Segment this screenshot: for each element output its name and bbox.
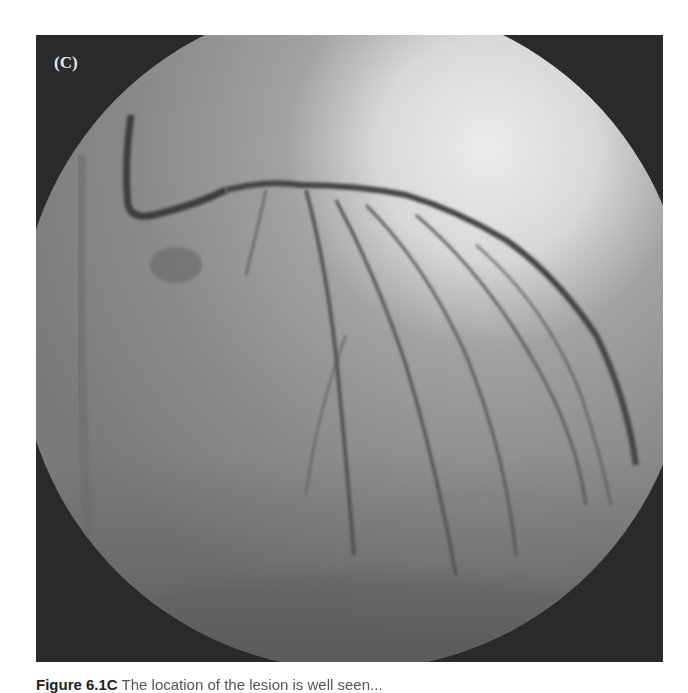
angiogram-image [36, 35, 663, 662]
caption-text: The location of the lesion is well seen.… [118, 676, 383, 693]
panel-label: (C) [54, 53, 78, 73]
figure-panel: (C) [36, 35, 663, 662]
caption-figure-number: Figure 6.1C [36, 676, 118, 693]
figure-caption: Figure 6.1C The location of the lesion i… [36, 676, 383, 693]
